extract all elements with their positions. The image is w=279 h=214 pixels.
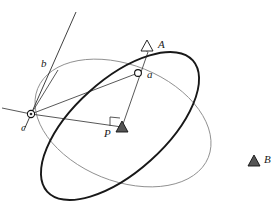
line-c-to-b — [31, 70, 58, 114]
line-c-to-P — [31, 114, 122, 127]
right-angle-mark-at-P — [110, 117, 120, 126]
label-c: c — [21, 121, 26, 133]
label-B: B — [264, 153, 271, 165]
line-c-to-a — [31, 73, 138, 114]
label-a: a — [147, 68, 153, 80]
triangle-icon-A — [141, 40, 153, 51]
ray-group — [2, 12, 148, 130]
right-angle-icon — [110, 117, 120, 126]
dangerous-circle — [16, 26, 223, 214]
geometry-diagram: A B P a b c — [0, 0, 279, 214]
ring-icon-c-inner — [30, 113, 33, 116]
label-P: P — [103, 127, 111, 139]
triangle-icon-B — [248, 155, 260, 166]
node-marker-c[interactable] — [27, 110, 34, 117]
station-marker-B[interactable] — [248, 155, 260, 166]
node-marker-a[interactable] — [135, 70, 142, 77]
ring-icon-a — [135, 70, 142, 77]
station-marker-A[interactable] — [141, 40, 153, 52]
label-A: A — [157, 38, 165, 50]
label-b: b — [41, 57, 47, 69]
line-c-extend-left — [2, 108, 31, 114]
dangerous-circle-group — [16, 26, 223, 214]
figure-canvas: A B P a b c — [0, 0, 279, 214]
